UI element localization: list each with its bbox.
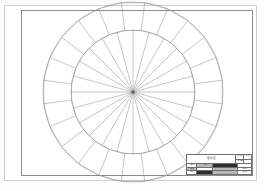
row-label-cell: 工艺 bbox=[187, 171, 197, 174]
weight-row: 重量 bbox=[236, 160, 251, 164]
scale-value: 1:1 bbox=[244, 155, 251, 159]
weight-label: 重量 bbox=[236, 160, 244, 164]
row-mid-cell bbox=[197, 171, 213, 174]
row-mid-cell bbox=[197, 168, 213, 171]
title-block-grid: 设计 日期 材料 审核 共1张 工艺 第1张 bbox=[187, 164, 251, 174]
title-block-top-row: 零件图 比例 1:1 重量 bbox=[187, 155, 251, 164]
drawing-title-cell: 零件图 bbox=[187, 155, 236, 163]
row-wide-cell: 材料 bbox=[213, 164, 238, 167]
row-end-cell: 第1张 bbox=[238, 171, 251, 174]
row-end-cell bbox=[238, 164, 251, 167]
weight-value bbox=[244, 160, 251, 164]
title-block-top-right: 比例 1:1 重量 bbox=[236, 155, 251, 163]
row-end-cell: 共1张 bbox=[238, 168, 251, 171]
drawing-sheet: 零件图 比例 1:1 重量 设计 日期 材料 审核 bbox=[0, 0, 264, 191]
row-label-cell: 设计 bbox=[187, 164, 197, 167]
row-mid-cell: 日期 bbox=[197, 164, 213, 167]
row-wide-cell bbox=[213, 168, 238, 171]
row-label-cell: 审核 bbox=[187, 168, 197, 171]
scale-label: 比例 bbox=[236, 155, 244, 159]
title-block[interactable]: 零件图 比例 1:1 重量 设计 日期 材料 审核 bbox=[186, 154, 252, 175]
row-wide-cell bbox=[213, 171, 238, 174]
table-row: 工艺 第1张 bbox=[187, 171, 251, 174]
drawing-border-frame bbox=[21, 10, 253, 176]
